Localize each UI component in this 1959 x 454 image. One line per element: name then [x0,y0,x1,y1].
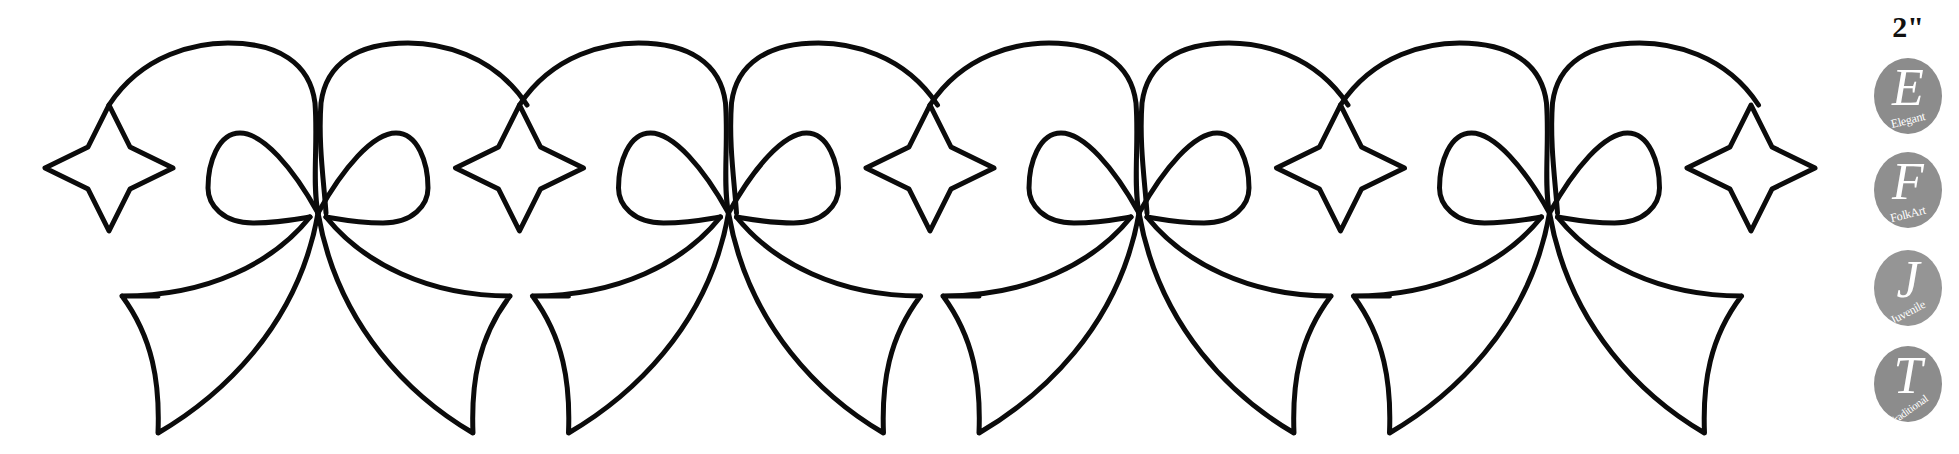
bow-4 [1341,43,1759,433]
badge-traditional: T Traditional [1874,346,1942,422]
star-3 [866,105,994,231]
star-4 [1277,105,1405,231]
star-2 [456,105,584,231]
bow-1 [109,43,527,433]
badge-juvenile: J Juvenile [1874,250,1942,326]
star-5 [1687,105,1815,231]
quilting-stencil-pattern [0,0,1959,454]
bow-2 [520,43,938,433]
bow-3 [930,43,1348,433]
size-label: 2" [1882,12,1934,42]
star-1 [45,105,173,231]
badge-elegant: E Elegant [1874,58,1942,134]
badge-folkart: F FolkArt [1874,152,1942,228]
